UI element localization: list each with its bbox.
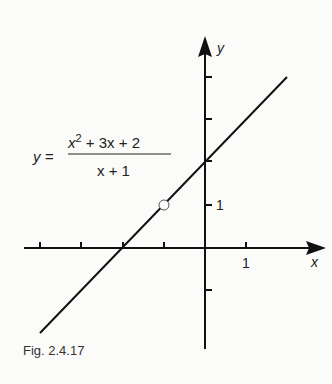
y-axis-arrow-icon: [198, 36, 212, 57]
y-axis-label: y: [216, 40, 225, 56]
equation: y = x2 + 3x + 2 x + 1: [32, 132, 171, 179]
svg-text:y =: y =: [32, 148, 54, 165]
x-axis-label: x: [310, 254, 319, 270]
plot-area: y x 1 1 y = x2 + 3x + 2 x + 1: [0, 0, 332, 384]
figure-caption: Fig. 2.4.17: [23, 343, 84, 358]
x-axis-arrow-icon: [306, 241, 326, 255]
x-tick-label-1: 1: [242, 255, 250, 271]
equation-lhs: y =: [32, 148, 54, 165]
numerator-rest: + 3x + 2: [82, 134, 140, 151]
hole-marker: [159, 200, 169, 210]
denominator: x + 1: [97, 162, 130, 179]
y-tick-label-1: 1: [216, 197, 224, 213]
figure: y x 1 1 y = x2 + 3x + 2 x + 1 Fig. 2.4.1…: [0, 0, 332, 384]
svg-text:x2 + 3x + 2: x2 + 3x + 2: [67, 132, 140, 151]
y-ticks: [205, 77, 212, 290]
